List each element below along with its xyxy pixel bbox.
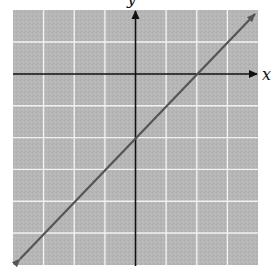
coordinate-plane: x y — [0, 0, 271, 268]
x-axis-label: x — [262, 65, 271, 84]
y-axis-label: y — [126, 0, 137, 8]
